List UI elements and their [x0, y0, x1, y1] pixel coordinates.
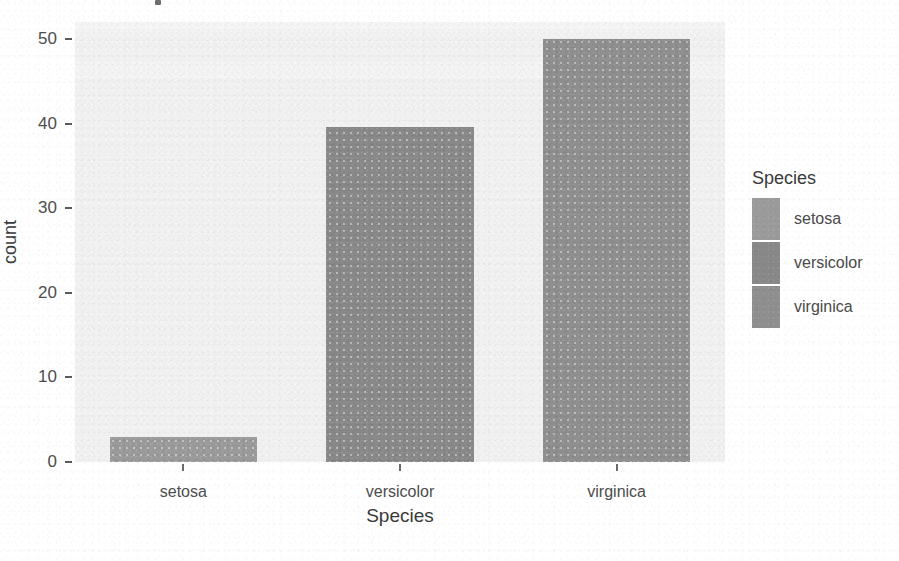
bar-setosa — [110, 437, 257, 462]
legend-key-swatch — [752, 286, 780, 328]
y-tick-mark — [65, 292, 72, 294]
bar-grain — [326, 127, 473, 462]
bar-versicolor — [326, 127, 473, 462]
legend-key-swatch — [752, 242, 780, 284]
y-tick-mark — [65, 207, 72, 209]
y-tick-mark — [65, 38, 72, 40]
x-tick-label-setosa: setosa — [160, 483, 207, 501]
x-axis-title: Species — [366, 505, 434, 527]
legend-key-grain — [752, 198, 780, 240]
y-tick-mark — [65, 461, 72, 463]
legend-item-label: versicolor — [794, 254, 862, 272]
plot-panel — [75, 22, 725, 462]
y-tick-label-50: 50 — [17, 29, 57, 49]
y-tick-label-20: 20 — [17, 283, 57, 303]
x-tick-label-versicolor: versicolor — [366, 483, 434, 501]
legend-item-virginica[interactable]: virginica — [752, 285, 862, 329]
x-tick-mark — [616, 464, 618, 471]
x-tick-label-virginica: virginica — [587, 483, 646, 501]
legend-item-setosa[interactable]: setosa — [752, 197, 862, 241]
legend-item-label: virginica — [794, 298, 853, 316]
legend-key-grain — [752, 286, 780, 328]
scan-artifact-mark — [155, 0, 161, 5]
legend-key-grain — [752, 242, 780, 284]
bar-virginica — [543, 39, 690, 462]
x-tick-mark — [399, 464, 401, 471]
y-tick-mark — [65, 123, 72, 125]
x-tick-mark — [182, 464, 184, 471]
bar-grain — [543, 39, 690, 462]
y-tick-label-30: 30 — [17, 198, 57, 218]
y-tick-label-10: 10 — [17, 367, 57, 387]
legend-items: setosaversicolorvirginica — [752, 197, 862, 329]
y-axis-title: count — [0, 220, 21, 264]
chart-figure: 50403020100 count setosaversicolorvirgin… — [0, 0, 899, 561]
y-tick-label-0: 0 — [17, 452, 57, 472]
legend: Species setosaversicolorvirginica — [752, 168, 862, 329]
legend-item-versicolor[interactable]: versicolor — [752, 241, 862, 285]
legend-key-swatch — [752, 198, 780, 240]
y-tick-mark — [65, 376, 72, 378]
y-tick-label-40: 40 — [17, 114, 57, 134]
bar-grain — [110, 437, 257, 462]
bar-series — [75, 22, 725, 462]
legend-title: Species — [752, 168, 862, 189]
legend-item-label: setosa — [794, 210, 841, 228]
